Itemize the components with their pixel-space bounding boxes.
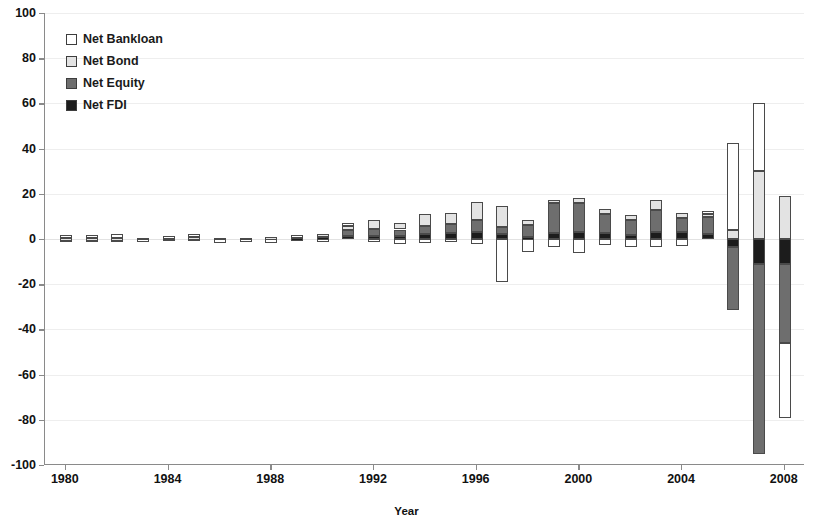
y-axis-tick-label: 60	[0, 97, 36, 110]
y-axis-tick-label: -20	[0, 278, 36, 291]
bar-segment	[240, 239, 252, 242]
y-axis-tick-label: -80	[0, 414, 36, 427]
legend-item-label: Net FDI	[83, 98, 127, 112]
legend-swatch-icon	[66, 56, 77, 67]
x-axis-tick-mark	[578, 465, 579, 470]
x-axis-tick-mark	[65, 465, 66, 470]
y-axis-tick-label: 0	[0, 233, 36, 246]
bar-group	[702, 13, 714, 464]
bar-group	[471, 13, 483, 464]
bar-segment	[368, 220, 380, 228]
x-axis-tick-label: 1992	[343, 473, 403, 486]
bar-segment	[111, 234, 123, 238]
bar-group	[753, 13, 765, 464]
bar-group	[342, 13, 354, 464]
bar-group	[265, 13, 277, 464]
bar-segment	[573, 232, 585, 239]
legend-swatch-icon	[66, 78, 77, 89]
bar-segment	[650, 200, 662, 209]
bar-segment	[702, 217, 714, 234]
bar-segment	[163, 236, 175, 239]
bar-segment	[394, 230, 406, 237]
x-axis-tick-mark	[681, 465, 682, 470]
bar-segment	[753, 239, 765, 264]
bar-segment	[342, 230, 354, 236]
bar-segment	[548, 200, 560, 204]
y-axis-tick-label: 100	[0, 7, 36, 20]
bar-segment	[573, 239, 585, 253]
bar-segment	[496, 239, 508, 282]
y-axis-tick-label: -40	[0, 323, 36, 336]
bar-segment	[676, 213, 688, 218]
y-axis-tick-label: -60	[0, 369, 36, 382]
bar-group	[676, 13, 688, 464]
bar-group	[548, 13, 560, 464]
bar-group	[188, 13, 200, 464]
bar-segment	[676, 232, 688, 239]
x-axis-tick-mark	[270, 465, 271, 470]
bar-segment	[419, 239, 431, 243]
bar-segment	[702, 211, 714, 215]
x-axis-tick-mark	[168, 465, 169, 470]
bar-segment	[111, 238, 123, 241]
legend-item: Net Equity	[66, 72, 163, 94]
bar-segment	[342, 226, 354, 230]
bar-segment	[394, 239, 406, 244]
bar-segment	[419, 214, 431, 227]
legend: Net BankloanNet BondNet EquityNet FDI	[66, 26, 163, 116]
bar-segment	[496, 227, 508, 234]
bar-segment	[625, 220, 637, 235]
bar-segment	[445, 224, 457, 233]
bar-group	[522, 13, 534, 464]
legend-swatch-icon	[66, 34, 77, 45]
bar-segment	[137, 239, 149, 242]
bar-segment	[265, 239, 277, 243]
bar-segment	[702, 214, 714, 217]
legend-item: Net Bankloan	[66, 28, 163, 50]
bar-segment	[471, 220, 483, 232]
bar-segment	[779, 264, 791, 343]
bar-segment	[86, 238, 98, 241]
bar-group	[317, 13, 329, 464]
bar-segment	[753, 171, 765, 239]
x-axis-tick-label: 1980	[35, 473, 95, 486]
x-axis-title: Year	[0, 505, 813, 517]
bar-segment	[548, 203, 560, 232]
legend-item-label: Net Equity	[83, 76, 145, 90]
bar-segment	[599, 239, 611, 245]
bar-group	[779, 13, 791, 464]
bar-group	[240, 13, 252, 464]
bar-segment	[573, 198, 585, 203]
x-axis-tick-label: 1988	[240, 473, 300, 486]
bar-segment	[368, 239, 380, 242]
legend-item: Net FDI	[66, 94, 163, 116]
bar-group	[599, 13, 611, 464]
x-axis-tick-label: 2000	[548, 473, 608, 486]
bar-segment	[188, 237, 200, 240]
bar-segment	[650, 210, 662, 232]
bar-segment	[291, 235, 303, 238]
bar-group	[445, 13, 457, 464]
bar-group	[214, 13, 226, 464]
y-axis-tick-mark	[39, 465, 44, 466]
x-axis-tick-label: 2008	[754, 473, 813, 486]
bar-segment	[779, 196, 791, 239]
bar-segment	[60, 238, 72, 241]
bar-segment	[625, 239, 637, 247]
bar-segment	[625, 215, 637, 220]
bar-segment	[317, 234, 329, 237]
bar-segment	[342, 223, 354, 227]
bar-segment	[727, 239, 739, 247]
bar-group	[163, 13, 175, 464]
bar-group	[650, 13, 662, 464]
bar-group	[496, 13, 508, 464]
bar-segment	[650, 232, 662, 239]
bar-segment	[548, 239, 560, 247]
y-axis-tick-label: 80	[0, 52, 36, 65]
bar-group	[419, 13, 431, 464]
bar-segment	[471, 232, 483, 239]
chart-canvas: 100806040200-20-40-60-80-100 19801984198…	[0, 0, 813, 531]
x-axis-tick-mark	[373, 465, 374, 470]
bar-segment	[317, 239, 329, 242]
bar-segment	[394, 223, 406, 230]
